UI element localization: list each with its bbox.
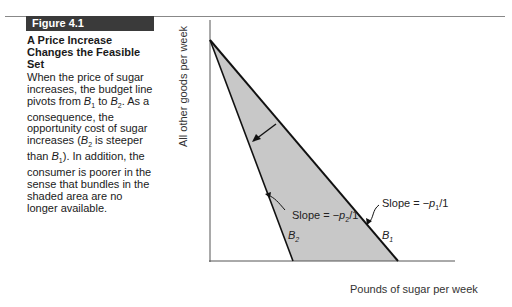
x-axis-label: Pounds of sugar per week (350, 283, 478, 295)
slope1-label: Slope = −p1/1 (382, 197, 448, 211)
b2-label: B2 (288, 229, 299, 243)
slope1-pointer (369, 205, 379, 222)
slope2-label: Slope = −p2/1 (292, 209, 358, 223)
b1-label: B1 (382, 229, 393, 243)
y-axis-label: All other goods per week (177, 27, 191, 147)
budget-line-chart (0, 0, 512, 307)
